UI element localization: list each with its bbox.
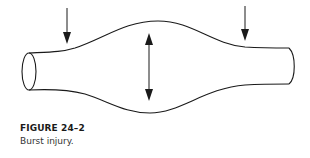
burst-injury-diagram [0, 0, 310, 125]
figure-caption: Burst injury. [20, 136, 74, 146]
figure-label: FIGURE 24–2 [20, 123, 85, 133]
vessel-bottom-outline [29, 84, 289, 113]
figure-illustration [0, 0, 310, 125]
arrow-down-icon [63, 8, 71, 44]
arrow-up-down-icon [145, 33, 153, 101]
vessel-open-end [22, 53, 36, 90]
arrow-down-icon [241, 6, 249, 41]
vessel-closed-end [289, 48, 294, 84]
